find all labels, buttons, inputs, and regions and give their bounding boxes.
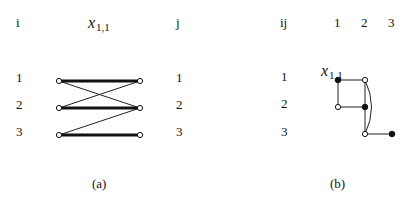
- node-1-1-filled: [335, 77, 341, 83]
- right-row-2: 2: [176, 97, 183, 112]
- left-header-i: i: [16, 15, 20, 30]
- panel-a: i j x 1,1 1 2 3 1 2 3 (a): [16, 14, 183, 191]
- node-2-1-open: [335, 104, 340, 109]
- right-node-3: [137, 132, 142, 137]
- left-row-3: 3: [16, 124, 23, 139]
- left-row-1: 1: [16, 70, 23, 85]
- left-node-3: [56, 132, 61, 137]
- var-label-x: x: [320, 62, 328, 79]
- right-row-3: 3: [176, 124, 183, 139]
- col-header-3: 3: [388, 15, 395, 30]
- caption-a: (a): [92, 176, 106, 191]
- node-2-2-filled: [362, 104, 368, 110]
- right-header-j: j: [175, 15, 180, 30]
- left-node-2: [56, 105, 61, 110]
- var-label-subscript: 1,1: [96, 21, 110, 33]
- corner-header-ij: ij: [280, 15, 287, 30]
- var-label-x: x: [87, 14, 95, 31]
- row-header-3: 3: [281, 124, 288, 139]
- row-header-2: 2: [281, 96, 288, 111]
- right-row-1: 1: [176, 70, 183, 85]
- col-header-1: 1: [334, 15, 341, 30]
- node-1-2-open: [362, 77, 367, 82]
- left-node-1: [56, 78, 61, 83]
- right-node-2: [137, 105, 142, 110]
- node-3-3-filled: [389, 131, 395, 137]
- row-header-1: 1: [281, 69, 288, 84]
- node-3-2-open: [362, 131, 367, 136]
- diagram-canvas: i j x 1,1 1 2 3 1 2 3 (a) ij 1 2 3 1 2 3: [0, 0, 410, 204]
- caption-b: (b): [330, 176, 345, 191]
- right-node-1: [137, 78, 142, 83]
- panel-b: ij 1 2 3 1 2 3 x 1,1 (b): [280, 15, 395, 191]
- edge-3-2: [59, 108, 140, 135]
- left-row-2: 2: [16, 97, 23, 112]
- col-header-2: 2: [361, 15, 368, 30]
